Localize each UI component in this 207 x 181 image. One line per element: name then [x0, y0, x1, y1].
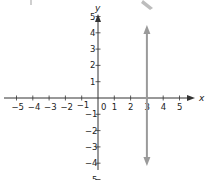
x-tick-label: −4 [28, 102, 41, 112]
y-tick-label: −5 [85, 175, 98, 181]
x-tick-label: −5 [12, 102, 25, 112]
graph-canvas: xy−5−4−3−2−1012345−5−4−3−2−112345 [0, 0, 207, 180]
y-tick-label: 3 [90, 44, 95, 54]
y-tick-label: −3 [85, 142, 98, 152]
y-tick-label: 2 [90, 60, 95, 70]
x-axis-arrow-icon [187, 95, 195, 101]
x-tick-label: 2 [128, 102, 133, 112]
crop-artifact [30, 0, 32, 5]
line-arrow-down-icon [143, 157, 150, 166]
x-tick-label: 1 [112, 102, 117, 112]
crop-artifact [141, 0, 153, 10]
line-arrow-up-icon [143, 25, 150, 34]
y-tick-label: −4 [85, 158, 98, 168]
y-tick-label: −2 [85, 126, 98, 136]
x-tick-label: −3 [44, 102, 57, 112]
y-tick-label: 4 [90, 28, 95, 38]
y-tick-label: −1 [85, 109, 98, 119]
x-axis-label: x [198, 93, 205, 103]
x-tick-label: 5 [177, 102, 182, 112]
y-tick-label: 5 [90, 12, 95, 22]
x-tick-label: 4 [161, 102, 166, 112]
origin-label: 0 [101, 102, 106, 112]
y-tick-label: 1 [90, 77, 95, 87]
x-tick-label: −2 [60, 102, 73, 112]
coordinate-plane: xy−5−4−3−2−1012345−5−4−3−2−112345 [0, 0, 207, 180]
y-axis-arrow-icon [95, 14, 101, 22]
